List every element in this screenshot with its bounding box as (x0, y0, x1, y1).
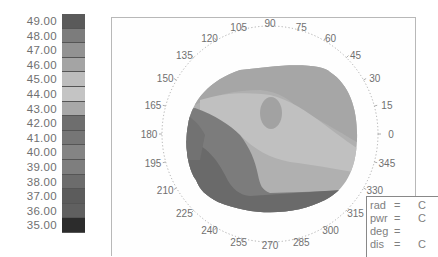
info-eq: = (394, 239, 418, 250)
info-row-pwr: pwr=C (370, 213, 426, 224)
angle-tick-label: 15 (381, 100, 393, 111)
angle-tick-label: 345 (379, 158, 396, 169)
angle-tick-label: 0 (388, 129, 394, 140)
angle-tick-label: 255 (230, 237, 247, 248)
info-row-dis: dis=C (370, 239, 426, 250)
contour-fill (180, 60, 370, 230)
angle-tick-label: 285 (293, 237, 310, 248)
angle-tick-mark (346, 56, 348, 58)
info-eq: = (394, 200, 418, 211)
angle-tick-label: 60 (325, 33, 337, 44)
angle-tick-mark (174, 79, 177, 81)
angle-tick-label: 300 (322, 225, 339, 236)
angle-tick-label: 210 (157, 185, 174, 196)
info-value: C (418, 199, 426, 211)
info-row-rad: rad=C (370, 200, 426, 211)
info-key: dis (370, 239, 394, 250)
angle-tick-label: 180 (141, 129, 158, 140)
angle-tick-mark (163, 105, 166, 106)
angle-tick-label: 165 (145, 100, 162, 111)
info-key: pwr (370, 213, 394, 224)
angle-tick-label: 75 (296, 22, 308, 33)
info-key: rad (370, 200, 394, 211)
angle-tick-label: 240 (201, 225, 218, 236)
angle-tick-mark (374, 162, 377, 163)
angle-tick-mark (174, 188, 177, 190)
angle-tick-label: 195 (145, 158, 162, 169)
angle-tick-label: 330 (366, 185, 383, 196)
angle-tick-mark (374, 105, 377, 106)
angle-tick-label: 315 (347, 208, 364, 219)
angle-tick-label: 150 (157, 73, 174, 84)
info-row-deg: deg= (370, 226, 418, 237)
info-eq: = (394, 226, 418, 237)
info-eq: = (394, 213, 418, 224)
info-value: C (418, 238, 426, 250)
angle-tick-label: 135 (176, 50, 193, 61)
angle-tick-label: 105 (230, 22, 247, 33)
info-box: rad=Cpwr=Cdeg=dis=C (366, 196, 438, 257)
angle-tick-label: 270 (262, 240, 279, 251)
angle-tick-label: 30 (369, 73, 381, 84)
info-key: deg (370, 226, 394, 237)
info-value: C (418, 212, 426, 224)
angle-tick-label: 120 (201, 33, 218, 44)
angle-tick-label: 225 (176, 208, 193, 219)
angle-tick-mark (163, 162, 166, 163)
angle-tick-mark (364, 79, 367, 81)
angle-tick-label: 45 (350, 50, 362, 61)
